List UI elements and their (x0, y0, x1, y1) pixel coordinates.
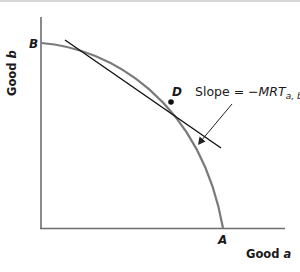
arrow-head-icon (198, 137, 206, 146)
point-b-label: B (29, 38, 38, 50)
point-d-label: D (172, 86, 182, 98)
y-axis-title: Good b (7, 50, 19, 96)
x-axis-title: Good a (246, 249, 291, 261)
slope-annotation: Slope = −MRTa, b (195, 86, 300, 101)
plot-area (0, 0, 300, 272)
point-a-label: A (218, 234, 227, 246)
annotation-arrow (201, 104, 232, 141)
ppf-diagram: Good b Good a B A D Slope = −MRTa, b (0, 0, 300, 272)
point-d-marker (168, 99, 174, 105)
ppf-curve (41, 43, 223, 228)
